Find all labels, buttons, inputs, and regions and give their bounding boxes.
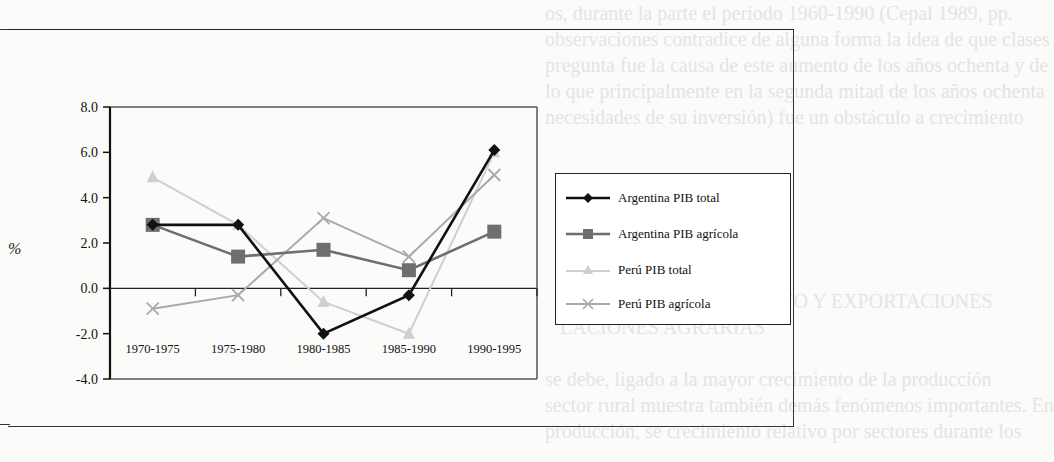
x-tick-label: 1990-1995: [467, 342, 521, 356]
square-marker-icon: [487, 225, 501, 239]
x-tick-label: 1980-1985: [296, 342, 350, 356]
x-tick-label: 1985-1990: [382, 342, 436, 356]
diamond-marker-icon: [564, 190, 612, 206]
legend-label: Argentina PIB agrícola: [618, 226, 738, 242]
legend-item-argentina-pib-agricola: Argentina PIB agrícola: [564, 224, 738, 244]
y-tick-label: 2.0: [81, 236, 99, 251]
y-tick-label: -2.0: [76, 327, 98, 342]
legend-item-peru-pib-agricola: Perú PIB agrícola: [564, 294, 710, 314]
y-tick-label: 4.0: [81, 191, 99, 206]
triangle-marker-icon: [318, 295, 330, 307]
y-axis-label: %: [8, 240, 21, 257]
x-tick-label: 1975-1980: [211, 342, 265, 356]
triangle-marker-icon: [564, 262, 612, 278]
legend-item-argentina-pib-total: Argentina PIB total: [564, 188, 720, 208]
square-marker-icon: [317, 243, 331, 257]
chart-legend: Argentina PIB total Argentina PIB agríco…: [555, 173, 791, 325]
square-marker-icon: [402, 263, 416, 277]
y-tick-label: -4.0: [76, 372, 98, 387]
chart-series: [146, 144, 502, 340]
legend-label: Perú PIB total: [618, 262, 692, 278]
triangle-marker-icon: [147, 170, 159, 182]
x-tick-label: 1970-1975: [126, 342, 180, 356]
square-marker-icon: [231, 250, 245, 264]
chart-axes: 8.06.04.02.00.0-2.0-4.0%1970-19751975-19…: [8, 100, 537, 387]
legend-item-peru-pib-total: Perú PIB total: [564, 260, 692, 280]
y-tick-label: 8.0: [81, 100, 99, 115]
square-marker-icon: [564, 226, 612, 242]
y-tick-label: 6.0: [81, 145, 99, 160]
legend-label: Perú PIB agrícola: [618, 296, 710, 312]
legend-label: Argentina PIB total: [618, 190, 720, 206]
x-marker-icon: [564, 296, 612, 312]
diamond-marker-icon: [403, 289, 415, 301]
y-tick-label: 0.0: [81, 281, 99, 296]
